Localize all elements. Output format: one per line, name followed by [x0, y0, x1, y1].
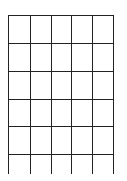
grid-vertical-line	[92, 15, 93, 174]
grid-horizontal-line	[8, 154, 114, 155]
grid-vertical-line	[71, 15, 72, 174]
grid	[0, 0, 127, 181]
grid-horizontal-line	[8, 15, 114, 16]
grid-horizontal-line	[8, 126, 114, 127]
grid-vertical-line	[113, 15, 114, 174]
grid-vertical-line	[51, 15, 52, 174]
grid-vertical-line	[8, 15, 9, 174]
grid-horizontal-line	[8, 71, 114, 72]
grid-horizontal-line	[8, 43, 114, 44]
grid-horizontal-line	[8, 99, 114, 100]
grid-vertical-line	[30, 15, 31, 174]
